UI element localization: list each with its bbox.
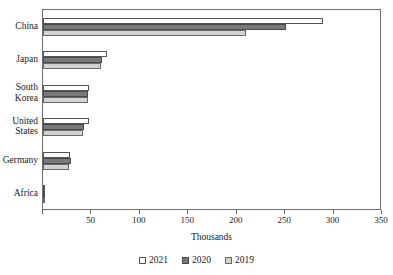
x-tick-150 xyxy=(187,210,188,214)
x-tick-300 xyxy=(333,210,334,214)
category-label-africa: Africa xyxy=(0,188,38,199)
category-label-south-korea: South Korea xyxy=(0,82,38,103)
x-tick-label-250: 250 xyxy=(264,215,304,225)
bar-2019-china xyxy=(43,30,246,36)
x-tick-250 xyxy=(284,210,285,214)
category-label-germany: Germany xyxy=(0,155,38,166)
category-label-japan: Japan xyxy=(0,54,38,65)
x-tick-label-100: 100 xyxy=(119,215,159,225)
legend-label-2019: 2019 xyxy=(235,255,254,265)
x-tick-350 xyxy=(381,210,382,214)
category-label-united-states: United States xyxy=(0,116,38,137)
chart-legend: 202120202019 xyxy=(0,255,393,265)
x-tick-100 xyxy=(139,210,140,214)
x-axis-title: Thousands xyxy=(42,232,381,242)
legend-item-2021[interactable]: 2021 xyxy=(139,255,168,265)
x-tick-label-300: 300 xyxy=(313,215,353,225)
bar-2019-united-states xyxy=(43,130,83,136)
bar-2019-south-korea xyxy=(43,97,88,103)
x-tick-label-200: 200 xyxy=(216,215,256,225)
x-tick-label-150: 150 xyxy=(167,215,207,225)
legend-item-2020[interactable]: 2020 xyxy=(182,255,211,265)
legend-label-2021: 2021 xyxy=(149,255,168,265)
legend-label-2020: 2020 xyxy=(192,255,211,265)
x-tick-label-50: 50 xyxy=(70,215,110,225)
legend-swatch-2020 xyxy=(182,257,189,264)
legend-swatch-2019 xyxy=(225,257,232,264)
bar-2019-germany xyxy=(43,164,69,170)
bar-2019-africa xyxy=(43,197,45,203)
chart-title xyxy=(42,0,381,1)
bar-2019-japan xyxy=(43,63,101,69)
legend-swatch-2021 xyxy=(139,257,146,264)
legend-item-2019[interactable]: 2019 xyxy=(225,255,254,265)
x-tick-200 xyxy=(236,210,237,214)
x-tick-0 xyxy=(42,210,43,214)
x-tick-label-350: 350 xyxy=(361,215,393,225)
x-axis: 50100150200250300350 xyxy=(42,210,381,215)
category-label-china: China xyxy=(0,21,38,32)
plot-area xyxy=(42,9,381,210)
x-tick-50 xyxy=(90,210,91,214)
horizontal-bar-chart: ChinaJapanSouth KoreaUnited StatesGerman… xyxy=(0,0,393,275)
